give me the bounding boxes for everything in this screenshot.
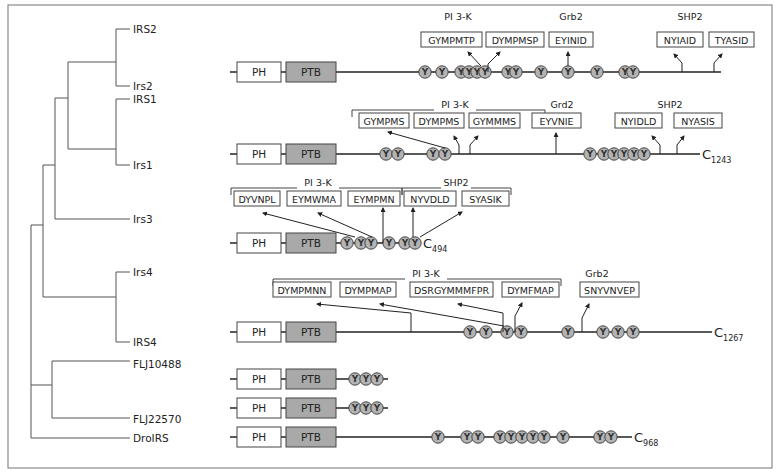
- motif-sequence: DYVNPL: [238, 194, 276, 205]
- tyrosine-label: Y: [529, 432, 537, 442]
- motif-sequence: NYVDLD: [410, 194, 449, 205]
- tree-leaf-label: Irs1: [133, 159, 153, 171]
- c-terminus-label: C494: [423, 236, 447, 254]
- tyrosine-label: Y: [474, 432, 482, 442]
- arrow-icon: [420, 212, 462, 237]
- binding-partner-label: Grb2: [585, 268, 608, 279]
- motif-sequence: EYVNIE: [539, 116, 573, 127]
- binding-partner-label: SHP2: [658, 99, 683, 110]
- tyrosine-label: Y: [593, 67, 601, 77]
- tyrosine-label: Y: [401, 238, 409, 248]
- tyrosine-label: Y: [434, 432, 442, 442]
- motif-sequence: DYMPMSP: [492, 35, 539, 46]
- tyrosine-label: Y: [629, 327, 637, 337]
- tyrosine-label: Y: [614, 327, 622, 337]
- tree-branch-irs1: [116, 99, 130, 165]
- motif-sequence: SYASIK: [469, 194, 502, 205]
- motif-sequence: GYMMMS: [473, 116, 516, 127]
- motif-sequence: DYMFMAP: [507, 285, 554, 296]
- tyrosine-label: Y: [482, 327, 490, 337]
- tyrosine-label: Y: [373, 403, 381, 413]
- motif-sequence: EYMWMA: [292, 194, 337, 205]
- tyrosine-label: Y: [466, 327, 474, 337]
- tyrosine-label: Y: [367, 238, 375, 248]
- arrow-icon: [582, 304, 589, 332]
- tyrosine-label: Y: [600, 149, 608, 159]
- tyrosine-label: Y: [382, 149, 390, 159]
- protein-row: PHPTBPI 3-KGrb2SHP2GYMPMTPDYMPMSPEYINIDN…: [230, 11, 754, 82]
- tyrosine-label: Y: [620, 149, 628, 159]
- ptb-domain-label: PTB: [301, 326, 321, 338]
- binding-partner-label: SHP2: [444, 177, 469, 188]
- c-terminus-label: C968: [634, 430, 658, 448]
- tyrosine-label: Y: [496, 432, 504, 442]
- tyrosine-label: Y: [343, 238, 351, 248]
- ptb-domain-label: PTB: [301, 237, 321, 249]
- tree-leaf-label: Irs3: [133, 213, 153, 225]
- ptb-domain-label: PTB: [301, 373, 321, 385]
- tyrosine-label: Y: [518, 432, 526, 442]
- arrow-icon: [677, 136, 684, 154]
- tyrosine-label: Y: [373, 374, 381, 384]
- irs-family-diagram: IRS2Irs2IRS1Irs1Irs3Irs4IRS4FLJ10488FLJ2…: [0, 0, 783, 475]
- tyrosine-label: Y: [564, 67, 572, 77]
- tyrosine-label: Y: [503, 327, 511, 337]
- tyrosine-label: Y: [438, 67, 446, 77]
- motif-sequence: NYASIS: [681, 116, 715, 127]
- ptb-domain-label: PTB: [301, 431, 321, 443]
- tree-branch-irs2: [116, 29, 130, 86]
- motif-sequence: DYMPMAP: [345, 285, 392, 296]
- tree-branch-irs4: [116, 272, 130, 342]
- tyrosine-label: Y: [362, 403, 370, 413]
- motif-sequence: EYINID: [555, 35, 587, 46]
- tree-leaf-label: DroIRS: [133, 432, 169, 444]
- arrow-icon: [458, 304, 503, 332]
- tyrosine-label: Y: [351, 374, 359, 384]
- tyrosine-label: Y: [537, 67, 545, 77]
- protein-row: PHPTBPI 3-KGrb2DYMPMNNDYMPMAPDSRGYMMMFPR…: [230, 268, 743, 343]
- ph-domain-label: PH: [252, 326, 266, 338]
- tyrosine-label: Y: [357, 238, 365, 248]
- tyrosine-label: Y: [564, 327, 572, 337]
- tree-leaf-label: IRS1: [133, 93, 157, 105]
- tyrosine-label: Y: [362, 374, 370, 384]
- motif-sequence: GYMPMS: [364, 116, 405, 127]
- ptb-domain-label: PTB: [301, 148, 321, 160]
- binding-partner-label: PI 3-K: [304, 177, 332, 188]
- tyrosine-label: Y: [629, 67, 637, 77]
- ptb-domain-label: PTB: [301, 66, 321, 78]
- motif-sequence: DYMPMNN: [278, 285, 327, 296]
- ph-domain-label: PH: [252, 373, 266, 385]
- tree-leaf-labels: IRS2Irs2IRS1Irs1Irs3Irs4IRS4FLJ10488FLJ2…: [133, 23, 181, 444]
- tree-leaf-label: Irs4: [133, 266, 153, 278]
- arrow-icon: [468, 52, 481, 66]
- binding-partner-label: PI 3-K: [444, 11, 472, 22]
- tyrosine-label: Y: [507, 432, 515, 442]
- motif-sequence: GYMPMTP: [428, 35, 475, 46]
- tyrosine-label: Y: [421, 67, 429, 77]
- motif-sequence: NYIDLD: [621, 116, 657, 127]
- diagram-svg: IRS2Irs2IRS1Irs1Irs3Irs4IRS4FLJ10488FLJ2…: [0, 0, 783, 475]
- arrow-icon: [454, 136, 459, 154]
- tyrosine-label: Y: [610, 149, 618, 159]
- arrow-icon: [380, 304, 504, 326]
- binding-partner-label: Grd2: [550, 99, 573, 110]
- arrow-icon: [470, 136, 478, 154]
- tyrosine-label: Y: [540, 432, 548, 442]
- tree-branch-irs3: [55, 98, 130, 219]
- binding-partner-label: PI 3-K: [412, 268, 440, 279]
- tyrosine-label: Y: [351, 403, 359, 413]
- tyrosine-label: Y: [517, 327, 525, 337]
- protein-row: PHPTBYYY: [230, 369, 388, 389]
- tyrosine-label: Y: [630, 149, 638, 159]
- binding-partner-label: PI 3-K: [441, 99, 469, 110]
- arrow-icon: [714, 54, 722, 72]
- tyrosine-label: Y: [607, 432, 615, 442]
- tyrosine-label: Y: [394, 149, 402, 159]
- tree-leaf-label: Irs2: [133, 80, 153, 92]
- tyrosine-label: Y: [586, 149, 594, 159]
- binding-partner-label: Grb2: [559, 11, 582, 22]
- tyrosine-label: Y: [411, 238, 419, 248]
- tyrosine-label: Y: [640, 149, 648, 159]
- c-terminus-label: C1243: [702, 147, 731, 165]
